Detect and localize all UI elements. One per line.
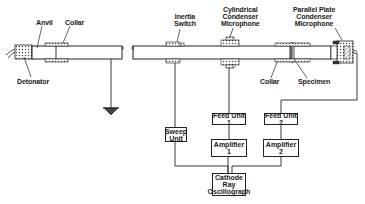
cathode-ray-oscillograph-box: Cathode Ray Oscillograph xyxy=(212,173,246,196)
feed-unit-2-box: Feed Unit 2 xyxy=(264,113,298,125)
cyl-mic-line3: Microphone xyxy=(221,20,260,27)
cyl-mic-line2: Condenser xyxy=(221,13,260,20)
label-cylindrical-microphone: Cylindrical Condenser Microphone xyxy=(221,6,260,27)
parallel-plate-microphone xyxy=(331,41,357,64)
pp-mic-line1: Parallel Plate xyxy=(293,6,335,13)
label-detonator: Detonator xyxy=(17,78,49,85)
pp-mic-line3: Microphone xyxy=(293,20,335,27)
collar-left-top xyxy=(45,43,68,46)
label-specimen: Specimen xyxy=(298,78,330,85)
cyl-mic-line1: Cylindrical xyxy=(221,6,260,13)
ground-symbol-icon xyxy=(103,108,119,115)
cro-line2: Ray xyxy=(223,181,236,188)
barrel-body xyxy=(32,46,122,59)
apparatus-diagram xyxy=(0,0,365,204)
pp-mic-line2: Condenser xyxy=(293,13,335,20)
sweep-unit-box: Sweep Unit xyxy=(165,127,187,142)
feed-unit-1-box: Feed Unit 1 xyxy=(212,113,246,125)
inertia-switch-line1: Inertia xyxy=(174,13,196,20)
label-parallel-plate-microphone: Parallel Plate Condenser Microphone xyxy=(293,6,335,27)
gun-barrel xyxy=(6,43,124,62)
amplifier-1-box: Amplifier 1 xyxy=(211,139,247,157)
label-collar-right: Collar xyxy=(260,78,279,85)
cro-line3: Oscillograph xyxy=(208,188,251,195)
amplifier-2-box: Amplifier 2 xyxy=(263,139,299,157)
inertia-switch-line2: Switch xyxy=(174,20,196,27)
label-inertia-switch: Inertia Switch xyxy=(174,13,196,27)
sweep-unit-line1: Sweep xyxy=(165,128,187,135)
label-collar-left: Collar xyxy=(65,19,84,26)
sweep-unit-line2: Unit xyxy=(169,135,183,142)
collar-left-bottom xyxy=(45,59,68,62)
cro-line1: Cathode xyxy=(215,174,243,181)
label-anvil: Anvil xyxy=(36,19,53,26)
detonator-casing xyxy=(15,45,32,59)
